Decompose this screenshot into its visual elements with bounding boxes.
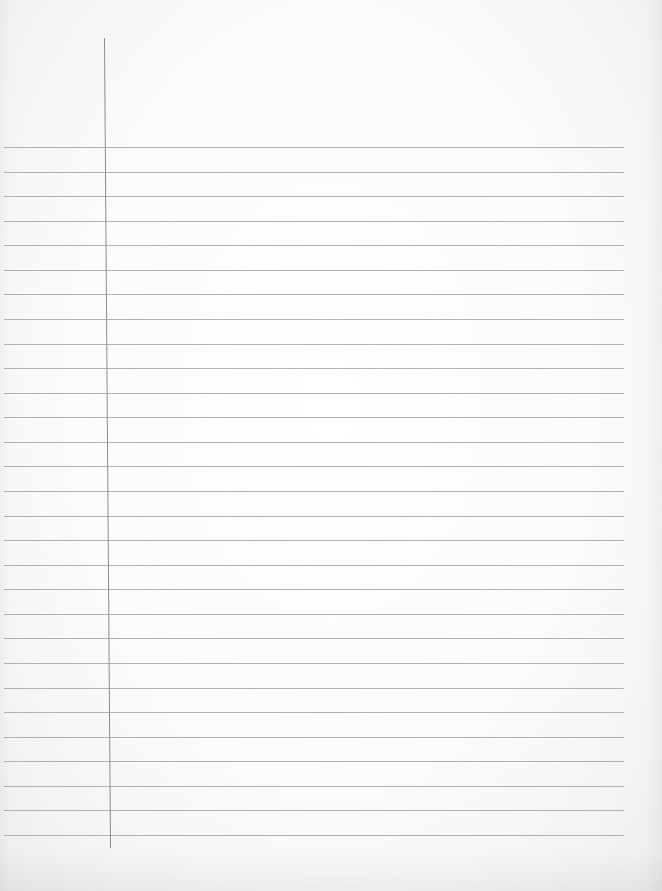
writing-area[interactable] — [112, 147, 622, 837]
lined-paper-page — [0, 0, 662, 891]
